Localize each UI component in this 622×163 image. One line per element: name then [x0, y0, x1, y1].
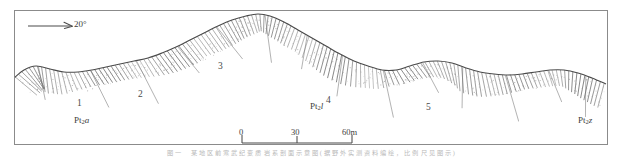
dip-angle-label: 20° [74, 20, 87, 29]
formation-left-prefix: Pt [74, 115, 82, 125]
formation-right-suffix: z [589, 115, 593, 125]
formation-center-prefix: Pt [310, 101, 318, 111]
scale-tick-label-0: 0 [239, 128, 243, 137]
figure-root: 20° 1 2 3 4 5 Pt2a Pt2l Pt2z 0 30 60m 图 … [0, 0, 622, 163]
formation-label-center: Pt2l [310, 102, 323, 112]
topographic-surface-line [14, 14, 606, 84]
hatch-pattern [16, 15, 605, 108]
figure-caption: 图 一 某 地 区 前 寒 武 纪 变 质 岩 系 剖 面 示 意 图 ( 据 … [0, 148, 622, 157]
unit-label-2: 2 [138, 90, 143, 100]
formation-right-prefix: Pt [578, 115, 586, 125]
unit-label-3: 3 [218, 62, 223, 72]
dip-arrow-icon [28, 22, 73, 28]
formation-center-suffix: l [321, 101, 324, 111]
scale-tick-label-30: 30 [291, 128, 300, 137]
stipple-pattern [20, 16, 604, 106]
formation-label-left: Pt2a [74, 116, 89, 126]
unit-label-5: 5 [426, 103, 431, 113]
cross-section-drawing [0, 0, 622, 163]
formation-label-right: Pt2z [578, 116, 592, 126]
scale-tick-label-60m: 60m [342, 128, 357, 137]
formation-left-suffix: a [85, 115, 90, 125]
unit-label-1: 1 [77, 99, 82, 109]
unit-label-4: 4 [326, 96, 331, 106]
